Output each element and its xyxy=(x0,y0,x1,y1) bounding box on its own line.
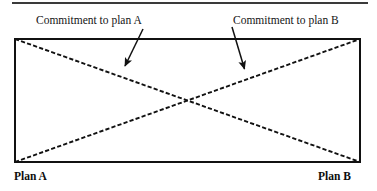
diagram-canvas: Commitment to plan A Commitment to plan … xyxy=(0,0,377,191)
diagram-lines-overlay xyxy=(0,0,377,191)
plan-a-endpoint-label: Plan A xyxy=(14,170,47,182)
commitment-to-plan-b-label: Commitment to plan B xyxy=(233,14,339,27)
arrow-to-plan-a-line xyxy=(125,29,143,66)
arrow-to-plan-b-line xyxy=(232,27,245,69)
plan-b-endpoint-label: Plan B xyxy=(318,170,351,182)
commitment-to-plan-a-label: Commitment to plan A xyxy=(36,14,142,27)
